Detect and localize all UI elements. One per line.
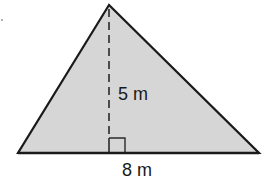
artifact-dot [1,19,3,21]
triangle-shape [18,5,259,153]
height-label: 5 m [118,84,148,104]
base-label: 8 m [122,160,152,180]
triangle-diagram: 5 m 8 m [0,0,266,186]
